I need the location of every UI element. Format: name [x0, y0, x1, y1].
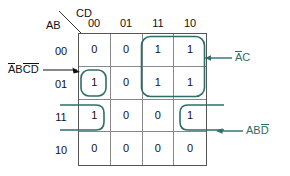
- group-label-abcd-part-1: B: [15, 63, 22, 75]
- group-label-abd: ABD: [246, 124, 269, 137]
- row-header-2: 11: [48, 111, 74, 123]
- kmap-cell-r0c3[interactable]: 1: [174, 34, 206, 67]
- kmap-cell-r2c1[interactable]: 0: [111, 100, 143, 133]
- kmap-cell-r3c1[interactable]: 0: [111, 132, 143, 165]
- kmap-cell-r3c2[interactable]: 0: [143, 132, 175, 165]
- kmap-cell-r0c1[interactable]: 0: [111, 34, 143, 67]
- kmap-cell-r1c0[interactable]: 1: [79, 67, 111, 100]
- group-arrow-abd: [216, 128, 223, 134]
- group-label-ac-part-1: C: [242, 51, 250, 63]
- kmap-cell-r0c2[interactable]: 1: [143, 34, 175, 67]
- row-header-0: 00: [48, 45, 74, 57]
- column-header-2: 11: [142, 17, 174, 29]
- kmap-cell-r1c1[interactable]: 0: [111, 67, 143, 100]
- kmap-cell-r0c0[interactable]: 0: [79, 34, 111, 67]
- group-label-abcd-part-3: D: [31, 63, 39, 76]
- kmap-grid: 0 0 1 1 1 0 1 1 1 0 0 1 0 0 0 0: [78, 33, 207, 166]
- group-label-abcd-part-2: C: [23, 63, 31, 76]
- kmap-cell-r1c3[interactable]: 1: [174, 67, 206, 100]
- column-header-0: 00: [78, 17, 110, 29]
- karnaugh-map-diagram: CD AB 00 01 11 10 00 01 11 10 0 0 1 1 1 …: [0, 0, 290, 176]
- kmap-cell-r2c2[interactable]: 0: [143, 100, 175, 133]
- kmap-cell-r2c3[interactable]: 1: [174, 100, 206, 133]
- group-label-ac: AC: [235, 51, 250, 64]
- group-label-abd-part-2: D: [261, 124, 269, 137]
- kmap-cell-r2c0[interactable]: 1: [79, 100, 111, 133]
- group-label-abcd: ABCD: [8, 63, 39, 76]
- row-header-3: 10: [48, 144, 74, 156]
- kmap-cell-r1c2[interactable]: 1: [143, 67, 175, 100]
- column-header-1: 01: [110, 17, 142, 29]
- kmap-cell-r3c0[interactable]: 0: [79, 132, 111, 165]
- kmap-cell-r3c3[interactable]: 0: [174, 132, 206, 165]
- row-header-1: 01: [48, 78, 74, 90]
- column-header-3: 10: [174, 17, 206, 29]
- group-label-abd-part-1: B: [253, 124, 260, 136]
